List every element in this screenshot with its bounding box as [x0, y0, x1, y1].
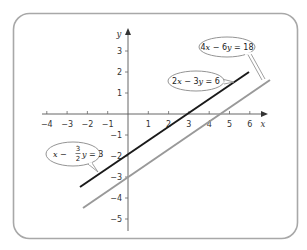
svg-text:x −: x − [53, 150, 67, 159]
svg-text:2x − 3y = 6: 2x − 3y = 6 [172, 77, 220, 86]
x-tick-label: −2 [82, 120, 94, 129]
y-tick-label: −1 [110, 131, 122, 140]
x-tick-label: 6 [247, 120, 252, 129]
y-tick-label: −5 [110, 215, 122, 224]
y-axis-label: y [116, 29, 122, 39]
y-tick-label: 3 [117, 47, 122, 56]
x-tick-label: −1 [102, 120, 114, 129]
x-tick-label: −3 [61, 120, 73, 129]
x-tick-label: 1 [146, 120, 151, 129]
y-tick-label: −4 [110, 194, 122, 203]
svg-text:y = 3: y = 3 [81, 150, 103, 159]
y-tick-label: 1 [117, 89, 122, 98]
y-tick-label: 2 [117, 68, 122, 77]
x-tick-label: 5 [227, 120, 232, 129]
y-tick-label: −3 [110, 173, 122, 182]
fraction-numerator: 3 [76, 145, 80, 153]
x-tick-label: −4 [41, 120, 53, 129]
graph-figure: −4 −3 −2 −1 1 2 3 4 5 6 x 3 2 1 −1 −2 −3… [0, 0, 307, 250]
svg-text:4x − 6y = 18: 4x − 6y = 18 [201, 43, 254, 52]
fraction-denominator: 2 [76, 155, 80, 163]
x-tick-label: 3 [186, 120, 191, 129]
x-axis-label: x [261, 119, 266, 129]
